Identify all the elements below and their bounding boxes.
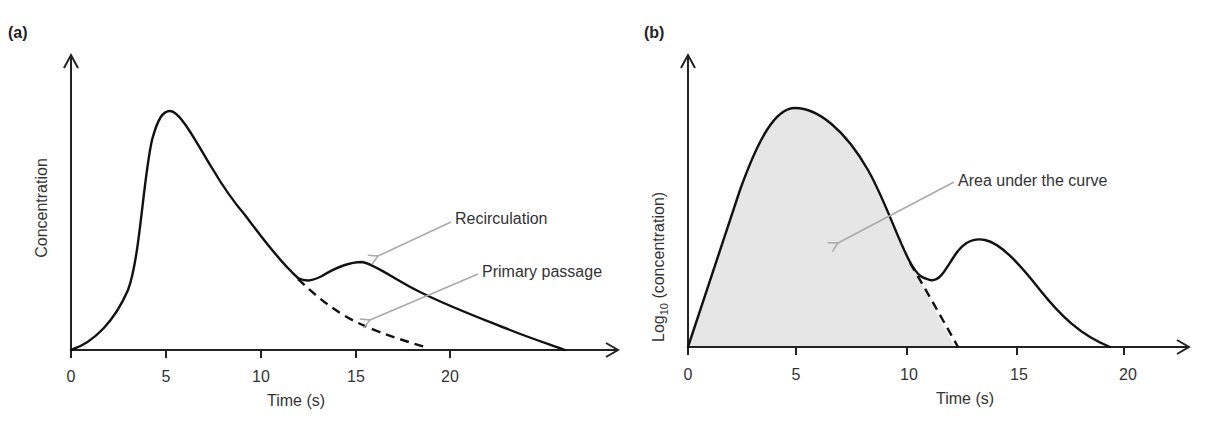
panel-a-concentration-curve xyxy=(71,111,565,350)
panel-a-recirculation-pointer-icon xyxy=(378,222,451,256)
panel-b-y-axis-title-subscript: 10 xyxy=(658,303,670,315)
panel-b-tick-label: 0 xyxy=(684,366,693,383)
panel-b-tick-label: 10 xyxy=(900,366,918,383)
panel-a-label: (a) xyxy=(8,24,28,41)
panel-b-tick-label: 15 xyxy=(1010,366,1028,383)
panel-b-tick-label: 20 xyxy=(1119,366,1137,383)
panel-b-y-axis-title: Log10 (concentration) xyxy=(650,192,670,342)
panel-a-recirculation-label: Recirculation xyxy=(455,210,547,227)
figure-canvas: (a) 0 5 10 15 20 Time (s) Concentration … xyxy=(0,0,1209,429)
panel-a-tick-label: 20 xyxy=(441,368,459,385)
panel-a-tick-label: 10 xyxy=(252,368,270,385)
panel-a-tick-label: 0 xyxy=(67,368,76,385)
panel-b-tick-label: 5 xyxy=(792,366,801,383)
panel-b-auc-label: Area under the curve xyxy=(958,172,1108,189)
panel-a-x-axis-title: Time (s) xyxy=(267,392,325,409)
panel-a-tick-label: 15 xyxy=(347,368,365,385)
panel-a-primary-passage-label: Primary passage xyxy=(482,263,602,280)
panel-b-x-axis-title: Time (s) xyxy=(936,390,994,407)
panel-b-y-axis-title-rest: (concentration) xyxy=(650,192,667,303)
panel-a: (a) 0 5 10 15 20 Time (s) Concentration … xyxy=(8,24,618,409)
panel-a-axes xyxy=(64,55,618,358)
panel-b: (b) 0 5 10 15 20 Time (s) Log10 (concent… xyxy=(644,24,1189,407)
panel-b-y-axis-title-log: Log xyxy=(650,315,667,342)
panel-a-y-axis-title: Concentration xyxy=(33,158,50,258)
panel-b-label: (b) xyxy=(644,24,664,41)
panel-a-tick-label: 5 xyxy=(162,368,171,385)
panel-a-primary-passage-pointer-icon xyxy=(370,274,478,320)
panel-a-primary-passage-curve xyxy=(298,279,425,347)
